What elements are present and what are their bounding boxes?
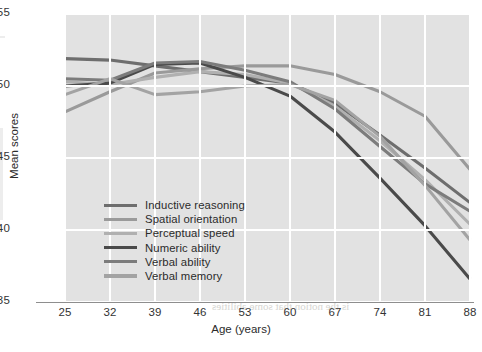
x-axis-tick-label: 81 <box>405 306 445 318</box>
legend-item-label: Verbal memory <box>145 270 222 282</box>
x-axis-tick-label: 60 <box>270 306 310 318</box>
x-axis-tick-label: 67 <box>315 306 355 318</box>
y-axis-title: Mean scores <box>8 96 20 196</box>
legend-color-swatch <box>104 246 137 249</box>
legend-item: Verbal ability <box>104 255 245 269</box>
legend-color-swatch <box>104 232 137 235</box>
legend-item-label: Verbal ability <box>145 256 210 268</box>
y-axis-tick-label: 55 <box>0 6 10 18</box>
gridline-vertical <box>379 14 381 302</box>
legend-item-label: Spatial orientation <box>145 213 237 225</box>
y-axis-tick-label: 45 <box>0 150 10 162</box>
x-axis-tick-label: 88 <box>450 306 482 318</box>
x-axis-tick-label: 25 <box>45 306 85 318</box>
chart-legend: Inductive reasoningSpatial orientationPe… <box>104 198 245 283</box>
y-axis-tick-label: 50 <box>0 78 10 90</box>
gridline-vertical <box>469 14 471 302</box>
x-axis-tick-label: 39 <box>135 306 175 318</box>
y-axis-tick-label: 40 <box>0 222 10 234</box>
cognitive-aging-line-chart: Mean scores Age (years) Inductive reason… <box>0 0 482 352</box>
legend-item: Inductive reasoning <box>104 198 245 212</box>
legend-item: Numeric ability <box>104 241 245 255</box>
gridline-horizontal <box>65 13 470 15</box>
legend-color-swatch <box>104 274 137 277</box>
legend-color-swatch <box>104 260 137 263</box>
x-axis-tick-label: 46 <box>180 306 220 318</box>
x-axis-tick-label: 74 <box>360 306 400 318</box>
legend-item: Verbal memory <box>104 269 245 283</box>
x-axis-rule <box>36 302 474 303</box>
gridline-vertical <box>334 14 336 302</box>
legend-item: Spatial orientation <box>104 212 245 226</box>
legend-item-label: Inductive reasoning <box>145 199 245 211</box>
legend-item-label: Perceptual speed <box>145 227 235 239</box>
legend-item-label: Numeric ability <box>145 242 221 254</box>
legend-color-swatch <box>104 218 137 221</box>
gridline-horizontal <box>65 157 470 159</box>
x-axis-tick-label: 53 <box>225 306 265 318</box>
x-axis-tick-label: 32 <box>90 306 130 318</box>
legend-item: Perceptual speed <box>104 226 245 240</box>
y-axis-tick-label: 35 <box>0 294 10 306</box>
gridline-horizontal <box>65 85 470 87</box>
gridline-vertical <box>64 14 66 302</box>
gridline-vertical <box>289 14 291 302</box>
legend-color-swatch <box>104 204 137 207</box>
gridline-vertical <box>424 14 426 302</box>
x-axis-title: Age (years) <box>0 323 482 335</box>
